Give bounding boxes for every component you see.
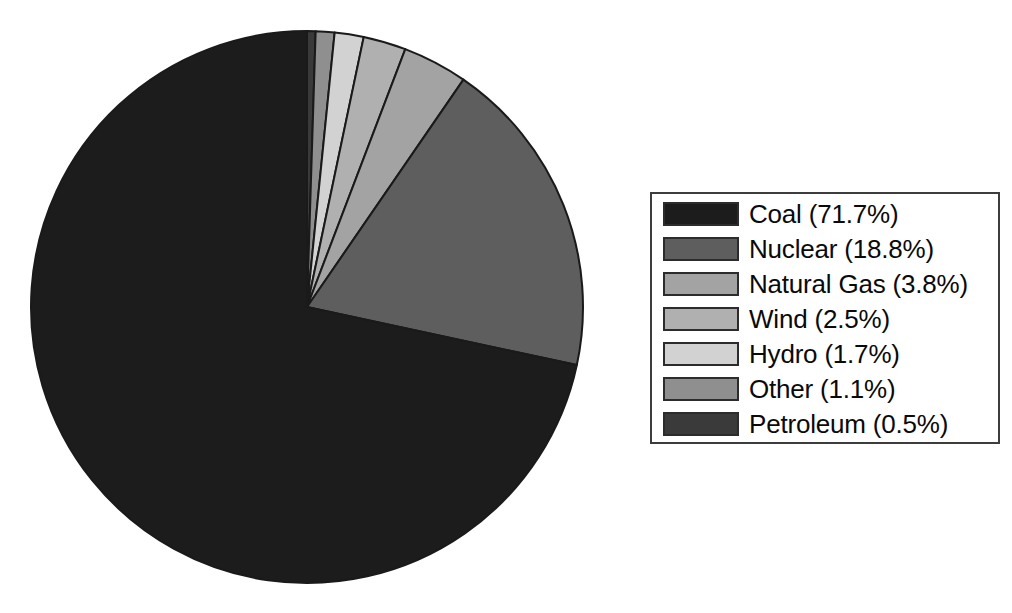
legend-color-swatch	[663, 272, 739, 296]
legend-item[interactable]: Other (1.1%)	[663, 376, 998, 401]
legend-item-label: Wind (2.5%)	[749, 306, 890, 332]
legend-color-swatch	[663, 377, 739, 401]
legend-row-list: Coal (71.7%)Nuclear (18.8%)Natural Gas (…	[652, 201, 998, 436]
legend-item[interactable]: Coal (71.7%)	[663, 201, 998, 226]
legend-item-label: Other (1.1%)	[749, 376, 895, 402]
legend-item-label: Coal (71.7%)	[749, 201, 898, 227]
legend-color-swatch	[663, 307, 739, 331]
pie-chart-figure: Coal (71.7%)Nuclear (18.8%)Natural Gas (…	[0, 0, 1012, 613]
legend-item[interactable]: Hydro (1.7%)	[663, 341, 998, 366]
pie-slice-group	[31, 31, 583, 583]
legend-color-swatch	[663, 237, 739, 261]
legend-item[interactable]: Nuclear (18.8%)	[663, 236, 998, 261]
legend-item-label: Natural Gas (3.8%)	[749, 271, 968, 297]
legend-item[interactable]: Wind (2.5%)	[663, 306, 998, 331]
legend-color-swatch	[663, 342, 739, 366]
legend-color-swatch	[663, 202, 739, 226]
legend-item[interactable]: Natural Gas (3.8%)	[663, 271, 998, 296]
pie-chart-plot-area	[29, 29, 585, 585]
chart-legend: Coal (71.7%)Nuclear (18.8%)Natural Gas (…	[650, 192, 1000, 444]
legend-color-swatch	[663, 412, 739, 436]
pie-chart-svg	[29, 29, 585, 585]
legend-item-label: Petroleum (0.5%)	[749, 411, 948, 437]
legend-item-label: Nuclear (18.8%)	[749, 236, 934, 262]
legend-item-label: Hydro (1.7%)	[749, 341, 900, 367]
legend-item[interactable]: Petroleum (0.5%)	[663, 411, 998, 436]
